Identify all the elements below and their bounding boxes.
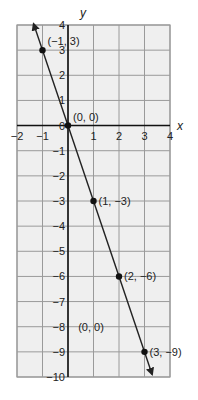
y-tick-label: 0: [59, 120, 65, 132]
graph-canvas: yx −2−1123443210−1−2−3−4−5−6−7−8−9−10 (−…: [0, 0, 198, 400]
data-point: [65, 122, 71, 128]
y-tick-label: −6: [52, 270, 65, 282]
annotation-label: (0, 0): [78, 321, 104, 333]
x-tick-label: −2: [11, 130, 24, 142]
x-axis-label: x: [176, 119, 184, 133]
y-tick-label: −10: [46, 371, 65, 383]
annotations: (0, 0): [78, 321, 104, 333]
y-tick-label: −2: [52, 170, 65, 182]
point-label: (2, −6): [124, 270, 156, 282]
y-tick-label: 2: [59, 69, 65, 81]
x-tick-label: 3: [141, 130, 147, 142]
y-tick-label: −1: [52, 145, 65, 157]
point-label: (−1, 3): [48, 35, 80, 47]
y-tick-label: −3: [52, 195, 65, 207]
y-tick-label: 4: [59, 19, 65, 31]
data-point: [90, 198, 96, 204]
point-label: (0, 0): [73, 111, 99, 123]
y-tick-label: −5: [52, 245, 65, 257]
y-tick-label: −8: [52, 321, 65, 333]
y-tick-label: −7: [52, 296, 65, 308]
coordinate-graph: yx −2−1123443210−1−2−3−4−5−6−7−8−9−10 (−…: [0, 0, 198, 400]
data-point: [39, 47, 45, 53]
y-tick-label: −9: [52, 346, 65, 358]
point-label: (1, −3): [99, 195, 131, 207]
point-label: (3, −9): [150, 346, 182, 358]
y-axis-label: y: [79, 6, 87, 20]
x-tick-label: 1: [90, 130, 96, 142]
x-tick-label: 4: [167, 130, 173, 142]
x-tick-label: 2: [116, 130, 122, 142]
data-point: [141, 349, 147, 355]
data-point: [116, 273, 122, 279]
y-tick-label: −4: [52, 220, 65, 232]
x-tick-label: −1: [36, 130, 49, 142]
